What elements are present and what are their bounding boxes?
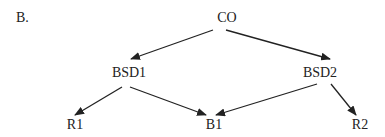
- edge-bsd1-r1: [75, 87, 122, 115]
- diagram-canvas: B. CO BSD1 BSD2 R1 B1 R2: [0, 0, 385, 137]
- edge-co-bsd2: [226, 30, 330, 59]
- edge-bsd2-b1: [216, 84, 317, 115]
- node-bsd1: BSD1: [112, 66, 146, 80]
- edge-bsd2-r2: [331, 84, 356, 115]
- node-r2: R2: [352, 118, 368, 132]
- edge-co-bsd1: [131, 30, 213, 59]
- node-r1: R1: [67, 118, 83, 132]
- node-bsd2: BSD2: [303, 66, 337, 80]
- edge-bsd1-b1: [130, 87, 206, 115]
- node-b1: B1: [206, 118, 222, 132]
- node-co: CO: [217, 11, 236, 25]
